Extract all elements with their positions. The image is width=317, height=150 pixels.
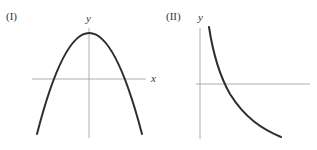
graph-2-decreasing-curve (209, 27, 281, 137)
graph-1-parabola-curve (37, 33, 142, 134)
graph-1: (I) x y (6, 10, 156, 138)
graph-1-label: (I) (6, 10, 17, 23)
graph-1-x-axis-label: x (150, 72, 156, 84)
graph-2-label: (II) (166, 10, 181, 23)
graph-2-y-axis-label: y (197, 11, 203, 23)
graph-1-y-axis-label: y (85, 12, 91, 24)
figure: (I) x y (II) y (0, 0, 317, 150)
graph-2: (II) y (166, 10, 310, 139)
